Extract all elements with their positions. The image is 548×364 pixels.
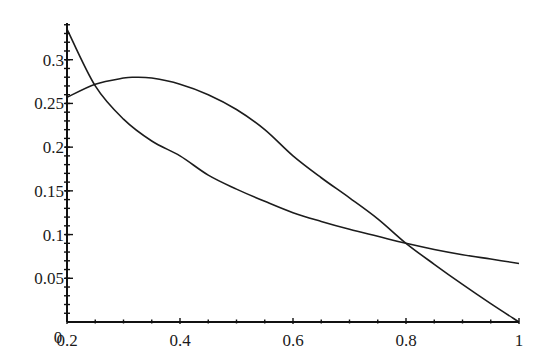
y-tick-label: 0.05: [34, 269, 64, 288]
x-tick-label: 1: [515, 331, 524, 350]
y-tick-label: 0.15: [34, 182, 64, 201]
y-tick-label: 0.2: [43, 138, 64, 157]
decreasing-curve: [67, 29, 519, 263]
x-tick-label: 0.2: [56, 331, 77, 350]
y-tick-label: 0.3: [43, 51, 64, 70]
y-tick-label: 0.1: [43, 226, 64, 245]
x-tick-label: 0.6: [282, 331, 303, 350]
hump-curve: [67, 77, 519, 322]
curves-group: [67, 29, 519, 322]
y-tick-label: 0.25: [34, 94, 64, 113]
line-chart: 0 0.20.40.60.810.050.10.150.20.250.3: [0, 0, 548, 364]
ticks-group: [64, 25, 519, 324]
tick-labels-group: 0 0.20.40.60.810.050.10.150.20.250.3: [34, 51, 523, 350]
x-tick-label: 0.8: [395, 331, 416, 350]
x-tick-label: 0.4: [169, 331, 191, 350]
